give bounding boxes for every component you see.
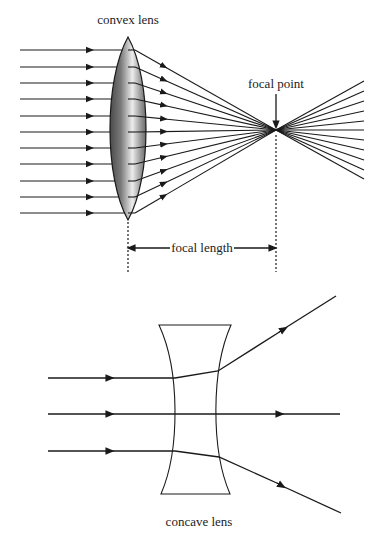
diverging-ray bbox=[276, 130, 364, 170]
convex-lens-diagram: convex lens focal point focal length bbox=[20, 12, 364, 272]
refracted-rays bbox=[128, 50, 364, 213]
refracted-ray-to-focus bbox=[162, 130, 276, 145]
refracted-ray-to-focus bbox=[162, 130, 276, 184]
refracted-ray bbox=[135, 196, 164, 213]
focal-length-label: focal length bbox=[171, 240, 233, 255]
diverging-ray bbox=[276, 91, 364, 130]
diverging-ray bbox=[276, 111, 364, 130]
refracted-ray-to-focus bbox=[162, 130, 276, 132]
refracted-ray-to-focus bbox=[162, 105, 276, 130]
lens-diagram: convex lens focal point focal length bbox=[0, 0, 385, 547]
refracted-ray bbox=[135, 50, 164, 66]
refracted-ray-to-focus bbox=[162, 130, 276, 171]
diverging-ray bbox=[276, 130, 364, 179]
refracted-ray-to-focus bbox=[162, 130, 276, 157]
convex-lens-shape bbox=[110, 37, 146, 220]
concave-lens-diagram: concave lens bbox=[48, 296, 341, 529]
concave-lens-label: concave lens bbox=[166, 514, 233, 529]
diverging-ray bbox=[276, 130, 364, 150]
convex-lens-label: convex lens bbox=[97, 12, 159, 27]
focal-point-label: focal point bbox=[248, 76, 304, 91]
concave-lens-shape bbox=[159, 325, 231, 494]
refracted-ray-to-focus bbox=[162, 130, 276, 197]
